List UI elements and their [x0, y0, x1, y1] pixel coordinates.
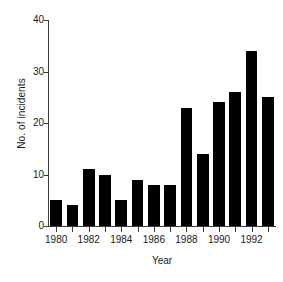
bar: [50, 200, 62, 226]
bar: [229, 92, 241, 226]
bar: [132, 180, 144, 226]
x-tick-mark: [89, 227, 90, 232]
y-tick-label: 30: [18, 67, 44, 77]
bar: [246, 51, 258, 226]
bar: [164, 185, 176, 226]
x-tick-label: 1980: [39, 234, 73, 246]
bar: [197, 154, 209, 226]
x-tick-mark: [56, 227, 57, 232]
x-tick-label: 1986: [137, 234, 171, 246]
x-tick-label: 1982: [72, 234, 106, 246]
x-tick-mark: [72, 227, 73, 232]
x-tick-mark: [154, 227, 155, 232]
x-tick-mark: [121, 227, 122, 232]
y-tick-label: 20: [18, 118, 44, 128]
x-tick-mark: [203, 227, 204, 232]
x-axis-tick-labels: 1980198219841986198819901992: [48, 234, 276, 248]
bar: [83, 169, 95, 226]
x-tick-label: 1988: [169, 234, 203, 246]
x-axis-title: Year: [48, 255, 276, 266]
x-tick-label: 1990: [202, 234, 236, 246]
y-tick-mark: [44, 226, 49, 227]
x-tick-mark: [186, 227, 187, 232]
bar: [99, 175, 111, 227]
x-tick-mark: [138, 227, 139, 232]
x-tick-mark: [235, 227, 236, 232]
bar: [67, 205, 79, 226]
bar-series: [48, 20, 276, 226]
y-tick-label: 10: [18, 170, 44, 180]
y-tick-label: 0: [18, 221, 44, 231]
bar-chart-figure: No. of incidents 010203040 1980198219841…: [0, 0, 283, 282]
x-tick-label: 1984: [104, 234, 138, 246]
x-tick-mark: [252, 227, 253, 232]
bar: [148, 185, 160, 226]
x-tick-mark: [105, 227, 106, 232]
plot-area: [48, 20, 276, 226]
x-tick-label: 1992: [235, 234, 269, 246]
x-axis-line: [48, 226, 276, 227]
bar: [262, 97, 274, 226]
x-tick-mark: [268, 227, 269, 232]
x-tick-mark: [219, 227, 220, 232]
x-tick-mark: [170, 227, 171, 232]
bar: [213, 102, 225, 226]
bar: [181, 108, 193, 226]
y-tick-label: 40: [18, 15, 44, 25]
bar: [115, 200, 127, 226]
